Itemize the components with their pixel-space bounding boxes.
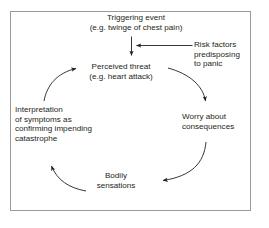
node-bodily-sensations: Bodily sensations	[88, 171, 144, 190]
arrow-threat-to-worry	[168, 68, 206, 101]
diagram-canvas: Triggering event (e.g. twinge of chest p…	[0, 0, 269, 228]
node-perceived-threat: Perceived threat (e.g. heart attack)	[72, 62, 170, 81]
arrow-worry-to-bodily	[163, 142, 206, 181]
node-risk-factors: Risk factors predisposing to panic	[194, 40, 256, 69]
node-interpretation-of-symptoms: Interpretation of symptoms as confirming…	[15, 105, 105, 143]
arrow-bodily-to-interpretation	[52, 166, 87, 191]
node-triggering-event: Triggering event (e.g. twinge of chest p…	[84, 13, 188, 32]
node-worry-about-consequences: Worry about consequences	[182, 112, 250, 131]
